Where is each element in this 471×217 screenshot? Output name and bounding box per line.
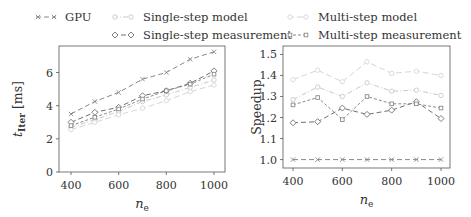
x-tick-label: 400 [61,179,82,192]
legend-item-ss_meas: Single-step measurement [112,28,292,42]
y-axis-label: Speedup [249,79,264,134]
y-tick-label: 6 [46,67,53,80]
y-axis-label: tIter [ms] [10,81,27,137]
o-small-marker-icon [212,83,216,87]
diamond-marker-icon [438,116,444,122]
o-small-marker-icon [304,15,308,19]
plot-speedup: 1.01.11.21.31.41.54006008001000neSpeedup [249,46,455,209]
y-tick-label: 1.5 [260,48,278,61]
square-marker-icon [69,124,73,128]
legend: GPUSingle-step modelSingle-step measurem… [36,10,462,42]
x-axis-label: ne [360,192,374,209]
x-tick-label: 600 [332,175,353,188]
o-small-marker-icon [439,93,443,97]
o-small-marker-icon [340,80,344,84]
square-marker-icon [304,33,308,37]
x-marker-icon [69,112,73,116]
o-small-marker-icon [389,89,393,93]
plot-iteration-time: 02464006008001000netIter [ms] [10,46,228,213]
square-marker-icon [439,106,443,110]
legend-item-gpu: GPU [36,10,92,24]
y-tick-label: 4 [46,100,53,113]
o-small-marker-icon [288,15,292,19]
o-small-marker-icon [414,69,418,73]
o-small-marker-icon [113,15,117,19]
diamond-marker-icon [92,109,98,115]
series-ss_meas [290,99,444,126]
legend-item-ms_meas: Multi-step measurement [288,28,462,42]
y-tick-label: 2 [46,133,53,146]
o-small-marker-icon [315,68,319,72]
square-marker-icon [415,102,419,106]
series-ss_model [69,78,216,130]
o-small-marker-icon [116,113,120,117]
o-small-marker-icon [69,128,73,132]
x-marker-icon [164,70,168,74]
o-small-marker-icon [140,106,144,110]
y-tick-label: 0 [46,166,53,179]
diamond-marker-icon [128,32,134,38]
series-ms_meas [69,72,216,127]
diamond-marker-icon [339,105,345,111]
o-small-marker-icon [164,99,168,103]
o-small-marker-icon [365,81,369,85]
square-marker-icon [188,82,192,86]
square-marker-icon [212,72,216,76]
x-tick-label: 800 [156,179,177,192]
square-marker-icon [93,115,97,119]
square-marker-icon [141,97,145,101]
y-tick-label: 1.0 [260,154,278,167]
diamond-marker-icon [290,120,296,126]
o-small-marker-icon [188,89,192,93]
legend-item-ss_model: Single-step model [113,10,248,24]
o-small-marker-icon [212,78,216,82]
o-small-marker-icon [291,77,295,81]
series-gpu [291,157,443,161]
x-tick-label: 400 [283,175,304,188]
o-small-marker-icon [365,60,369,64]
x-tick-label: 1000 [200,179,228,192]
legend-label: GPU [65,10,92,24]
x-marker-icon [93,99,97,103]
o-small-marker-icon [439,73,443,77]
diamond-marker-icon [364,111,370,117]
diamond-marker-icon [315,119,321,125]
x-marker-icon [188,57,192,61]
square-marker-icon [288,33,292,37]
square-marker-icon [117,107,121,111]
square-marker-icon [365,95,369,99]
legend-label: Single-step measurement [143,28,292,42]
diamond-marker-icon [112,32,118,38]
o-small-marker-icon [291,97,295,101]
o-small-marker-icon [129,15,133,19]
square-marker-icon [291,103,295,107]
diamond-marker-icon [389,107,395,113]
legend-label: Single-step model [143,10,248,24]
x-tick-label: 800 [381,175,402,188]
x-axis-label: ne [135,196,149,213]
figure: GPUSingle-step modelSingle-step measurem… [0,0,471,217]
o-small-marker-icon [315,85,319,89]
legend-item-ms_model: Multi-step model [288,10,418,24]
o-small-marker-icon [389,71,393,75]
x-marker-icon [116,90,120,94]
square-marker-icon [165,89,169,93]
x-tick-label: 1000 [427,175,455,188]
square-marker-icon [316,96,320,100]
legend-label: Multi-step measurement [318,28,462,42]
o-small-marker-icon [93,120,97,124]
o-small-marker-icon [414,88,418,92]
series-ms_model [69,83,216,132]
square-marker-icon [341,118,345,122]
x-tick-label: 600 [108,179,129,192]
series-ss_meas [68,68,217,125]
square-marker-icon [390,102,394,106]
legend-label: Multi-step model [318,10,417,24]
o-small-marker-icon [340,94,344,98]
